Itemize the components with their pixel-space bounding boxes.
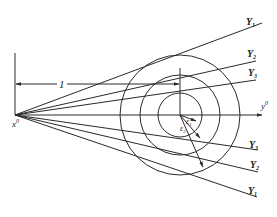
epsilon1-label: ε1 bbox=[186, 117, 192, 127]
label-Y1-upper: Y1 bbox=[246, 16, 255, 28]
y0-axis-label: y0 bbox=[260, 100, 268, 111]
line-Y3-lower bbox=[15, 115, 258, 150]
line-Y2-upper bbox=[15, 61, 256, 115]
cone-circles-diagram: 1 ε1 ε2 x0 y0 Y1 Y2 Y3 Y3 Y2 bbox=[0, 0, 277, 217]
label-Y3-lower: Y3 bbox=[249, 139, 258, 151]
label-Y3-upper: Y3 bbox=[248, 67, 257, 79]
dimension-label: 1 bbox=[59, 78, 65, 90]
label-Y2-lower: Y2 bbox=[250, 159, 259, 171]
label-Y1-lower: Y1 bbox=[248, 185, 257, 197]
line-Y1-upper bbox=[15, 23, 262, 115]
line-Y2-lower bbox=[15, 115, 258, 172]
line-Y1-lower bbox=[15, 115, 257, 197]
label-Y2-upper: Y2 bbox=[247, 48, 256, 60]
origin-label: x0 bbox=[11, 118, 19, 129]
